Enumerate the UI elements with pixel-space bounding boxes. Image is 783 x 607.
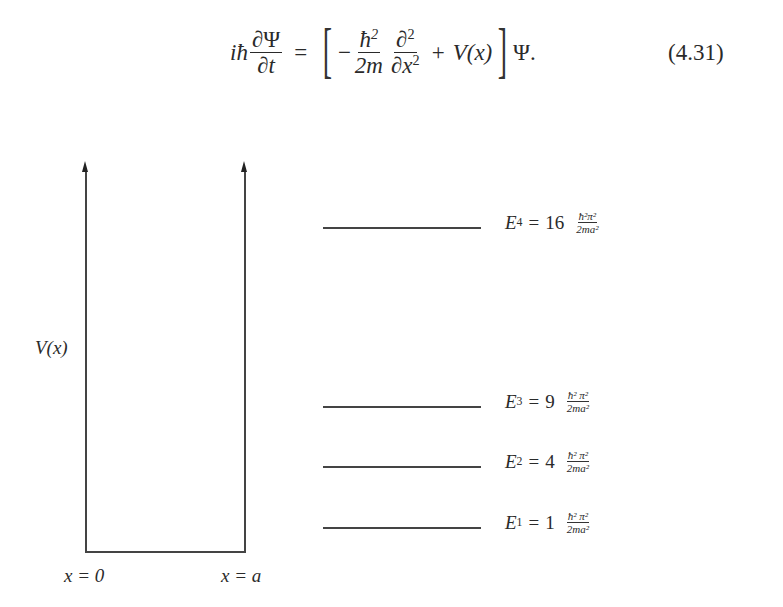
energy-level-2-label: E2 = 4 ħ² π²2ma² <box>505 449 589 475</box>
hbar-over-2m-fraction: ħ2 2m <box>353 27 385 80</box>
second-derivative-fraction: ∂2 ∂x2 <box>389 27 422 80</box>
right-wall-arrow-icon <box>241 161 247 172</box>
lhs-prefix: iħ <box>230 40 248 66</box>
schrodinger-equation: iħ ∂Ψ ∂t = [ − ħ2 2m ∂2 ∂x2 + V(x) ] Ψ. <box>230 18 536 88</box>
energy-unit-fraction: ħ² π²2ma² <box>567 449 589 475</box>
right-bracket: ] <box>498 19 507 81</box>
energy-unit-fraction: ħ²π²2ma² <box>576 210 598 236</box>
energy-level-1-line <box>323 527 481 529</box>
equals-sign: = <box>294 40 307 66</box>
left-wall-arrow-icon <box>82 161 88 172</box>
energy-level-1-label: E1 = 1 ħ² π²2ma² <box>505 510 589 536</box>
energy-level-2-line <box>323 466 481 468</box>
energy-level-4-line <box>323 227 481 229</box>
time-derivative-fraction: ∂Ψ ∂t <box>250 27 282 80</box>
energy-level-3-label: E3 = 9 ħ² π²2ma² <box>505 389 589 415</box>
energy-unit-fraction: ħ² π²2ma² <box>567 510 589 536</box>
left-wall-label: x = 0 <box>64 565 104 587</box>
well-floor-line <box>85 551 246 553</box>
right-wall-label: x = a <box>221 565 261 587</box>
potential-term: V(x) <box>453 40 493 66</box>
potential-label: V(x) <box>35 337 68 359</box>
right-wall-line <box>244 172 246 552</box>
equation-number: (4.31) <box>668 40 724 66</box>
psi-suffix: Ψ. <box>513 40 536 66</box>
left-bracket: [ <box>323 19 332 81</box>
energy-level-4-label: E4 = 16 ħ²π²2ma² <box>505 210 598 236</box>
energy-unit-fraction: ħ² π²2ma² <box>567 389 589 415</box>
plus-sign: + <box>432 40 445 66</box>
energy-level-3-line <box>323 406 481 408</box>
minus-sign: − <box>338 40 351 66</box>
left-wall-line <box>85 172 87 552</box>
